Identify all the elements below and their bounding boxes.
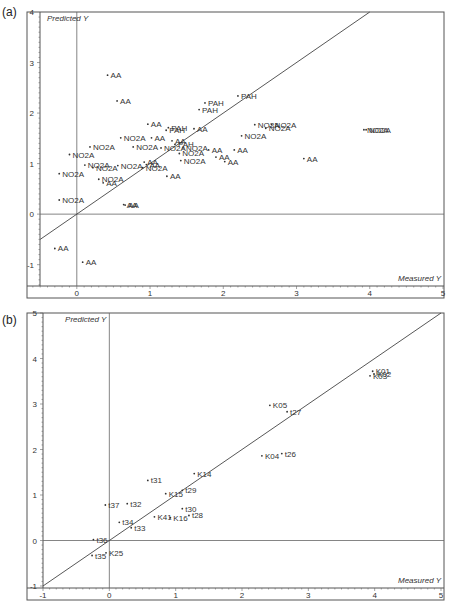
point-marker (102, 182, 104, 184)
y-axis-title: Predicted Y (65, 315, 107, 324)
point-marker (117, 165, 119, 167)
x-tick-label: 3 (294, 289, 299, 298)
point-marker (165, 493, 167, 495)
y-tick-label: 0 (30, 210, 35, 219)
point-label: AA (307, 155, 318, 164)
point-marker (169, 517, 171, 519)
data-point: NO2A (265, 124, 291, 133)
y-tick-label: 5 (33, 309, 38, 318)
data-point: AA (107, 71, 122, 80)
y-tick-label: 3 (30, 59, 35, 68)
data-point: AA (151, 134, 166, 143)
point-label: PAH (169, 126, 185, 135)
point-marker (363, 129, 365, 131)
point-marker (166, 175, 168, 177)
y-tick-label: 0 (33, 537, 38, 546)
point-marker (105, 552, 107, 554)
data-point: NO2A (92, 164, 118, 173)
point-marker (116, 100, 118, 102)
y-tick-label: -1 (30, 582, 38, 591)
point-marker (147, 480, 149, 482)
point-label: NO2A (184, 157, 206, 166)
x-tick-label: 0 (75, 289, 80, 298)
x-axis-title: Measured Y (398, 274, 442, 283)
point-marker (365, 129, 367, 131)
point-marker (237, 95, 239, 97)
y-tick-label: 4 (30, 8, 35, 17)
data-point: AA (303, 155, 318, 164)
x-tick-label: 1 (173, 591, 178, 600)
point-marker (132, 146, 134, 148)
data-point: NO2A (365, 126, 391, 135)
point-label: AA (155, 134, 166, 143)
point-label: K15 (169, 490, 184, 499)
point-marker (84, 164, 86, 166)
point-marker (124, 204, 126, 206)
point-marker (69, 154, 71, 156)
data-point: t32 (126, 500, 142, 509)
point-label: NO2A (72, 151, 94, 160)
data-point: NO2A (132, 143, 158, 152)
point-label: NO2A (136, 143, 158, 152)
data-point: K25 (105, 549, 124, 558)
x-tick-label: 2 (221, 289, 226, 298)
point-label: AA (170, 172, 181, 181)
point-marker (269, 404, 271, 406)
point-marker (181, 490, 183, 492)
point-marker (165, 129, 167, 131)
data-point: NO2A (58, 170, 84, 179)
x-tick-label: 1 (148, 289, 153, 298)
point-label: AA (128, 201, 139, 210)
data-point: NO2A (241, 132, 267, 141)
data-point: t26 (281, 450, 297, 459)
data-point: K14 (193, 470, 212, 479)
point-label: NO2A (146, 164, 168, 173)
point-label: K03 (373, 372, 388, 381)
x-tick-label: 4 (372, 591, 377, 600)
point-marker (142, 167, 144, 169)
point-marker (241, 135, 243, 137)
point-marker (224, 161, 226, 163)
point-label: t29 (185, 486, 197, 495)
point-label: PAH (241, 92, 257, 101)
point-marker (107, 74, 109, 76)
point-label: NO2A (369, 126, 391, 135)
point-label: NO2A (124, 134, 146, 143)
point-marker (82, 261, 84, 263)
point-marker (151, 137, 153, 139)
data-point: t29 (181, 486, 197, 495)
point-marker (286, 411, 288, 413)
data-point: PAH (237, 92, 257, 101)
point-marker (98, 178, 100, 180)
x-tick-label: -1 (39, 591, 47, 600)
y-tick-label: 4 (33, 355, 38, 364)
point-label: AA (86, 258, 97, 267)
point-label: t31 (151, 476, 163, 485)
y-tick-label: -1 (27, 261, 35, 270)
point-label: K25 (109, 549, 124, 558)
point-marker (147, 123, 149, 125)
point-label: K05 (273, 401, 288, 410)
scatter-plot-a: -101234012345Predicted YMeasured YAAAAPA… (0, 0, 453, 305)
point-label: AA (151, 120, 162, 129)
point-label: AA (237, 146, 248, 155)
point-label: NO2A (93, 143, 115, 152)
point-label: NO2A (121, 162, 143, 171)
point-label: NO2A (245, 132, 267, 141)
data-point: AA (54, 244, 69, 253)
point-marker (181, 508, 183, 510)
point-marker (160, 147, 162, 149)
point-marker (193, 473, 195, 475)
scatter-panel-b: (b) -1012345-1012345Predicted YMeasured … (0, 305, 453, 615)
point-marker (254, 124, 256, 126)
point-marker (303, 158, 305, 160)
point-marker (198, 109, 200, 111)
point-label: t37 (108, 501, 120, 510)
x-tick-label: 0 (107, 591, 112, 600)
data-point: t34 (118, 518, 134, 527)
point-label: t32 (130, 500, 142, 509)
point-label: t36 (96, 536, 108, 545)
point-marker (265, 127, 267, 129)
point-marker (130, 527, 132, 529)
data-point: NO2A (58, 196, 84, 205)
